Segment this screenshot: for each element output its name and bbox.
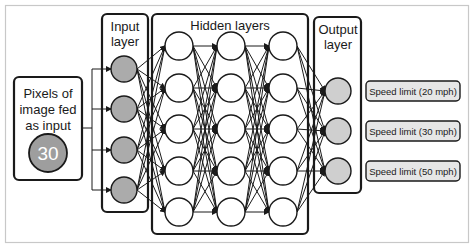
output-label-3: Speed limit (50 mph): [366, 161, 460, 181]
input-source-box: Pixels of image fed as input 30: [14, 77, 82, 180]
hidden-layer-3-node-2: [269, 74, 297, 102]
sample-pixel-value: 30: [37, 143, 58, 164]
hidden-layer-2-node-4: [217, 157, 245, 185]
input-node-4: [111, 177, 137, 203]
input-source-label-line-2: image fed: [19, 102, 76, 117]
input-source-label-line-3: as input: [25, 118, 71, 133]
input-node-2: [111, 96, 137, 122]
hidden-layer-1-node-3: [165, 115, 193, 143]
output-label-3-text: Speed limit (50 mph): [369, 166, 457, 177]
output-node-3: [325, 158, 351, 184]
hidden-layer-1-node-1: [165, 32, 193, 60]
hidden-layer-1-node-5: [165, 198, 193, 226]
output-label-2-text: Speed limit (30 mph): [369, 126, 457, 137]
hidden-layer-2-node-3: [217, 115, 245, 143]
hidden-layer-3-node-1: [269, 32, 297, 60]
hidden-layer-1-node-2: [165, 74, 193, 102]
hidden-layers-label: Hidden layers: [190, 18, 270, 33]
input-node-1: [111, 56, 137, 82]
output-node-2: [325, 118, 351, 144]
input-layer-label-line-2: layer: [111, 34, 140, 49]
input-node-3: [111, 137, 137, 163]
hidden-layer-3-node-5: [269, 198, 297, 226]
hidden-layer-3-node-3: [269, 115, 297, 143]
neural-network-diagram: Pixels of image fed as input 30 Input la…: [0, 0, 472, 247]
output-label-2: Speed limit (30 mph): [366, 121, 460, 141]
hidden-layer-1-node-4: [165, 157, 193, 185]
output-node-1: [325, 78, 351, 104]
hidden-layer-2-node-5: [217, 198, 245, 226]
output-label-1-text: Speed limit (20 mph): [369, 86, 457, 97]
input-layer-label-line-1: Input: [111, 19, 140, 34]
hidden-layer-3-node-4: [269, 157, 297, 185]
output-label-1: Speed limit (20 mph): [366, 81, 460, 101]
output-layer-label-line-1: Output: [318, 22, 357, 37]
hidden-layer-2-node-1: [217, 32, 245, 60]
input-source-label-line-1: Pixels of: [23, 86, 73, 101]
hidden-layer-2-node-2: [217, 74, 245, 102]
edge-hidden-output: [297, 171, 325, 212]
output-layer-label-line-2: layer: [324, 37, 353, 52]
edge-hidden-output: [297, 46, 325, 91]
